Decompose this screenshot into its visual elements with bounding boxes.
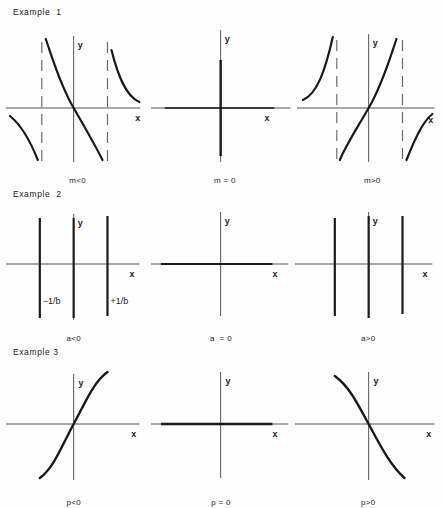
y-axis-label: y	[79, 378, 84, 388]
example-block-2: Example 2 x y −1/b +1/b	[0, 186, 442, 344]
example-heading: Example 2	[13, 189, 62, 199]
panel-caption: a = 0	[147, 334, 294, 343]
example-block-1: Example 1 x y m<	[0, 0, 442, 186]
y-axis-label: y	[226, 376, 231, 386]
plot-area: x y	[0, 362, 147, 488]
y-axis-label: y	[225, 34, 230, 44]
x-axis-label: x	[428, 115, 433, 125]
graph-panel-p-zero: x y p = 0	[147, 362, 294, 508]
x-axis-label: x	[426, 429, 431, 439]
panel-caption: m>0	[295, 176, 442, 185]
panel-row: x y −1/b +1/b a<0 x y	[0, 204, 442, 344]
x-axis-label: x	[135, 113, 140, 123]
plot-area: x y −1/b +1/b	[0, 204, 147, 324]
x-axis-label: x	[131, 429, 136, 439]
example-block-3: Example 3 x y p<0	[0, 344, 442, 508]
graph-panel-a-zero: x y a = 0	[147, 204, 294, 344]
y-axis-label: y	[373, 376, 378, 386]
panel-caption: m<0	[0, 176, 151, 185]
label-minus-one-over-b: −1/b	[43, 296, 61, 306]
graph-panel-p-positive: x y p>0	[295, 362, 442, 508]
panel-row: x y m<0 x y m	[0, 22, 442, 186]
plot-area: x y	[295, 204, 442, 324]
panel-caption: a<0	[0, 334, 147, 343]
y-axis-label: y	[225, 216, 230, 226]
figure-sheet: Example 1 x y m<	[0, 0, 442, 508]
curve-branch-far-left	[10, 116, 38, 160]
y-axis-label: y	[372, 216, 377, 226]
plot-area: x y	[0, 22, 147, 166]
graph-panel-m-positive: x y m>0	[295, 22, 442, 186]
s-curve-decreasing	[334, 376, 404, 478]
panel-caption: p<0	[0, 498, 147, 507]
panel-row: x y p<0 x y p = 0	[0, 362, 442, 508]
plot-area: x y	[295, 362, 442, 488]
plot-area: x y	[147, 22, 294, 166]
x-axis-label: x	[265, 113, 270, 123]
y-axis-label: y	[78, 40, 83, 50]
panel-caption: a>0	[295, 334, 442, 343]
graph-panel-p-negative: x y p<0	[0, 362, 147, 508]
graph-panel-m-zero: x y m = 0	[147, 22, 294, 186]
panel-caption: p = 0	[147, 498, 294, 507]
y-axis-label: y	[372, 38, 377, 48]
plot-area: x y	[295, 22, 442, 166]
x-axis-label: x	[129, 269, 134, 279]
graph-panel-a-negative: x y −1/b +1/b a<0	[0, 204, 147, 344]
label-plus-one-over-b: +1/b	[110, 296, 128, 306]
graph-panel-a-positive: x y a>0	[295, 204, 442, 344]
example-heading: Example 1	[13, 7, 62, 17]
curve-branch-far-left	[303, 37, 333, 100]
plot-area: x y	[147, 204, 294, 324]
x-axis-label: x	[422, 269, 427, 279]
example-heading: Example 3	[13, 347, 59, 357]
panel-caption: p>0	[295, 498, 442, 507]
x-axis-label: x	[273, 269, 278, 279]
panel-caption: m = 0	[147, 176, 298, 185]
y-axis-label: y	[78, 218, 83, 228]
curve-branch-far-right	[111, 50, 139, 102]
x-axis-label: x	[273, 429, 278, 439]
graph-panel-m-negative: x y m<0	[0, 22, 147, 186]
plot-area: x y	[147, 362, 294, 488]
